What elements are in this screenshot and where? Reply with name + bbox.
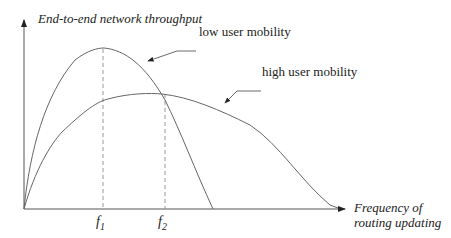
- y-axis-label: End-to-end network throughput: [38, 11, 202, 26]
- high-mobility-arrow: [225, 91, 261, 103]
- x-axis-label-line1: Frequency of: [354, 200, 422, 215]
- high-mobility-label: high user mobility: [262, 64, 357, 79]
- tick-f2: f2: [158, 214, 167, 234]
- x-axis-label-line2: routing updating: [354, 215, 441, 230]
- high-mobility-curve: [24, 94, 338, 209]
- low-mobility-label: low user mobility: [199, 24, 291, 39]
- low-mobility-curve: [24, 48, 213, 209]
- low-mobility-arrow: [148, 51, 196, 61]
- tick-f1: f1: [96, 214, 105, 234]
